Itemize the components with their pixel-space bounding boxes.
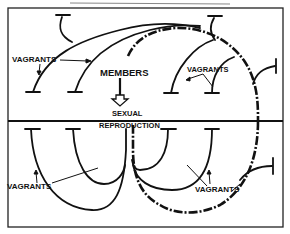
vagrants-label-top-left: VAGRANTS bbox=[12, 55, 57, 64]
far-right-upper-branch bbox=[253, 66, 275, 84]
top-right-inner-arc bbox=[212, 57, 234, 93]
bottom-left-inner-u bbox=[73, 129, 125, 184]
bottom-right-outer-u bbox=[133, 129, 212, 190]
diagram-canvas: VAGRANTS VAGRANTS MEMBERS SEXUAL REPRODU… bbox=[0, 0, 290, 234]
far-right-lower-branch bbox=[240, 166, 272, 180]
sexual-label: SEXUAL bbox=[112, 109, 143, 118]
top-left-inner-arc bbox=[75, 25, 200, 92]
lineage-diagram: VAGRANTS VAGRANTS MEMBERS SEXUAL REPRODU… bbox=[0, 0, 290, 234]
down-arrow-icon bbox=[112, 95, 128, 106]
vagrants-label-top-right: VAGRANTS bbox=[187, 65, 229, 74]
bottom-left-outer-u bbox=[31, 129, 126, 210]
top-left-outer-arc bbox=[33, 24, 200, 92]
members-label: MEMBERS bbox=[100, 67, 149, 78]
bottom-right-inner-u bbox=[132, 129, 168, 170]
reproduction-label: REPRODUCTION bbox=[99, 121, 160, 130]
scan-edge-line bbox=[70, 3, 230, 4]
vagrants-label-bottom-left: VAGRANTS bbox=[7, 182, 52, 191]
pointer-br-1 bbox=[187, 165, 207, 186]
pointer-tr-1 bbox=[203, 74, 213, 87]
pointer-bl-2 bbox=[52, 168, 98, 183]
pointer-tl-2 bbox=[60, 60, 88, 61]
top-left-small-branch bbox=[60, 17, 72, 42]
